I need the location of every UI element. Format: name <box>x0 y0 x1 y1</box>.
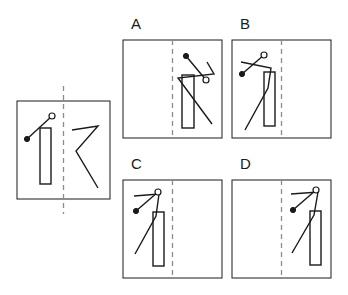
option-panel-d[interactable] <box>232 180 331 278</box>
reference-panel[interactable] <box>17 86 110 214</box>
option-segment-a-filled-dot <box>183 53 188 58</box>
reference-segment-open-circle <box>49 113 55 119</box>
option-segment-b-open-circle <box>261 52 267 58</box>
option-panel-a[interactable] <box>123 40 222 138</box>
reference-segment-filled-dot <box>24 136 29 141</box>
option-label-b: B <box>240 16 250 31</box>
option-label-c: C <box>131 156 142 171</box>
figure-canvas <box>0 0 348 295</box>
option-rectangle-c <box>153 212 164 266</box>
option-segment-b-filled-dot <box>239 71 244 76</box>
option-segment-c-open-circle <box>155 189 161 195</box>
option-panel-c[interactable] <box>123 180 222 278</box>
option-rectangle-a <box>182 75 194 128</box>
reference-rectangle <box>40 128 51 184</box>
option-label-a: A <box>131 16 141 31</box>
option-panel-b[interactable] <box>232 40 331 138</box>
option-segment-a-open-circle <box>203 77 209 83</box>
option-segment-c-filled-dot <box>133 208 138 213</box>
option-segment-d-filled-dot <box>290 207 295 212</box>
option-segment-d-open-circle <box>313 187 319 193</box>
puzzle-stage: A B C D <box>0 0 348 295</box>
option-label-d: D <box>240 156 251 171</box>
